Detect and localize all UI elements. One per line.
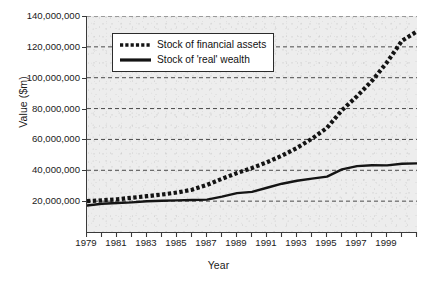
solid-line-swatch-icon <box>119 54 152 66</box>
chart-figure: Value ($m) 20,000,00040,000,00060,000,00… <box>0 0 437 282</box>
y-axis-tick-label: 60,000,000 <box>0 134 80 144</box>
legend-item-financial-assets: Stock of financial assets <box>119 37 266 52</box>
x-axis-tick-label: 1999 <box>366 237 406 248</box>
y-axis-tick-label: 80,000,000 <box>0 104 80 114</box>
legend-item-real-wealth: Stock of 'real' wealth <box>119 52 266 67</box>
y-axis-tick-label: 40,000,000 <box>0 165 80 175</box>
chart-legend: Stock of financial assets Stock of 'real… <box>112 33 274 72</box>
x-axis-tick-marks <box>86 232 418 238</box>
dotted-line-swatch-icon <box>119 39 152 51</box>
legend-label-real-wealth: Stock of 'real' wealth <box>152 54 250 65</box>
y-axis-tick-label: 140,000,000 <box>0 11 80 21</box>
x-axis-title: Year <box>0 259 437 271</box>
y-axis-tick-label: 100,000,000 <box>0 73 80 83</box>
legend-label-financial-assets: Stock of financial assets <box>152 39 266 50</box>
y-axis-tick-label: 20,000,000 <box>0 196 80 206</box>
y-axis-tick-label: 120,000,000 <box>0 42 80 52</box>
